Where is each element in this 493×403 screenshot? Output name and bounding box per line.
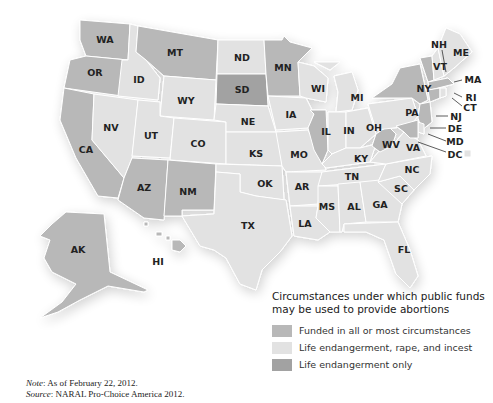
legend-label: Life endangerment only <box>299 359 412 370</box>
legend-item-life-rape-incest: Life endangerment, rape, and incest <box>272 339 492 356</box>
label-TN: TN <box>345 171 359 182</box>
label-OR: OR <box>87 67 103 78</box>
label-WY: WY <box>177 95 194 106</box>
state-WI <box>298 62 328 102</box>
leader-MA <box>454 80 462 82</box>
legend-swatch-life-rape-incest <box>272 342 292 354</box>
label-CO: CO <box>190 138 205 149</box>
label-ND: ND <box>234 52 250 63</box>
label-WI: WI <box>311 83 325 94</box>
label-LA: LA <box>298 218 312 229</box>
label-DC: DC <box>448 149 463 160</box>
state-DE <box>418 122 424 134</box>
note-text: : As of February 22, 2012. <box>43 378 138 388</box>
label-VT: VT <box>433 61 447 72</box>
state-RI <box>440 88 446 98</box>
source-label: Source <box>26 389 51 399</box>
label-TX: TX <box>241 220 255 231</box>
label-AR: AR <box>295 181 310 192</box>
label-CT: CT <box>463 102 477 113</box>
label-MS: MS <box>319 201 335 212</box>
footnote: Note: As of February 22, 2012. Source: N… <box>26 378 185 400</box>
legend-item-life-only: Life endangerment only <box>272 356 492 373</box>
label-NE: NE <box>241 116 255 127</box>
leader-CT <box>452 98 462 106</box>
label-MD: MD <box>446 136 463 147</box>
legend-item-all-most: Funded in all or most circumstances <box>272 322 492 339</box>
label-NM: NM <box>179 186 196 197</box>
note-label: Note <box>26 378 43 388</box>
label-VA: VA <box>406 142 421 153</box>
label-CA: CA <box>79 144 94 155</box>
legend-title-line1: Circumstances under which public funds <box>272 290 492 303</box>
legend-title: Circumstances under which public funds m… <box>272 290 492 316</box>
label-DE: DE <box>448 123 462 134</box>
label-AL: AL <box>347 201 360 212</box>
label-MN: MN <box>274 62 291 73</box>
label-OH: OH <box>366 122 382 133</box>
state-HI <box>144 222 186 252</box>
legend-title-line2: may be used to provide abortions <box>272 303 492 316</box>
label-NJ: NJ <box>450 111 462 122</box>
state-FL <box>344 222 418 288</box>
label-HI: HI <box>152 256 164 267</box>
label-SD: SD <box>235 84 250 95</box>
legend: Circumstances under which public funds m… <box>272 290 492 373</box>
label-WA: WA <box>96 34 114 45</box>
label-AZ: AZ <box>137 182 151 193</box>
label-MO: MO <box>290 149 308 160</box>
label-IL: IL <box>321 126 331 137</box>
label-KS: KS <box>249 148 263 159</box>
label-MT: MT <box>167 47 183 58</box>
label-NY: NY <box>417 83 432 94</box>
leader-MD <box>428 134 446 141</box>
label-IN: IN <box>343 125 355 136</box>
footnote-source: Source: NARAL Pro-Choice America 2012. <box>26 389 185 400</box>
legend-label: Life endangerment, rape, and incest <box>299 342 472 353</box>
leader-RI <box>454 93 462 97</box>
label-ID: ID <box>133 74 145 85</box>
legend-swatch-life-only <box>272 359 292 371</box>
legend-label: Funded in all or most circumstances <box>299 325 471 336</box>
us-choropleth-map: WA OR CA ID NV MT WY UT CO AZ NM ND SD N… <box>0 0 493 330</box>
state-DC-swatch <box>464 150 471 157</box>
label-AK: AK <box>71 244 86 255</box>
label-KY: KY <box>354 153 368 164</box>
label-OK: OK <box>257 178 273 189</box>
footnote-note: Note: As of February 22, 2012. <box>26 378 185 389</box>
label-FL: FL <box>398 244 411 255</box>
label-NV: NV <box>103 122 119 133</box>
state-AK <box>40 212 148 318</box>
label-WV: WV <box>382 139 400 150</box>
label-ME: ME <box>453 47 469 58</box>
label-UT: UT <box>144 130 159 141</box>
label-PA: PA <box>405 107 419 118</box>
label-MI: MI <box>351 92 364 103</box>
label-IA: IA <box>286 109 298 120</box>
legend-swatch-all-most <box>272 325 292 337</box>
label-GA: GA <box>372 199 388 210</box>
source-text: : NARAL Pro-Choice America 2012. <box>51 389 185 399</box>
label-NC: NC <box>405 164 420 175</box>
label-SC: SC <box>394 183 408 194</box>
label-NH: NH <box>431 39 447 50</box>
label-MA: MA <box>465 74 482 85</box>
